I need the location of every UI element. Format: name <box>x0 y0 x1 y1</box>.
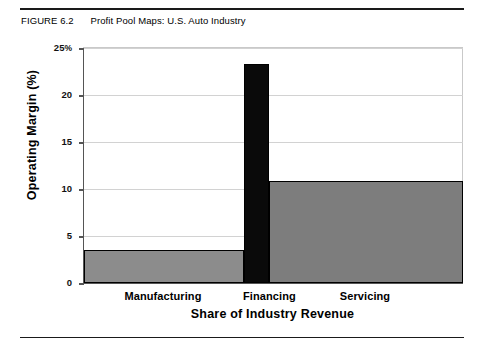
y-tick-label-5: 5 <box>32 230 72 241</box>
y-tick-label-10: 10 <box>32 183 72 194</box>
bar-financing <box>244 64 269 283</box>
y-tick-label-15: 15 <box>32 136 72 147</box>
x-label-manufacturing: Manufacturing <box>83 290 243 302</box>
y-axis-percent-symbol: % <box>64 43 72 53</box>
gridline-25 <box>84 48 463 49</box>
chart-container: Operating Margin (%) 25%20151050 Manufac… <box>0 0 484 347</box>
y-tick-label-0: 0 <box>32 277 72 288</box>
plot-area <box>83 48 463 284</box>
gridline-15 <box>84 142 463 143</box>
y-tick-label-20: 20 <box>32 89 72 100</box>
x-axis-title: Share of Industry Revenue <box>83 307 462 321</box>
x-label-servicing: Servicing <box>268 290 462 302</box>
figure-rule-bottom <box>20 337 464 338</box>
gridline-20 <box>84 95 463 96</box>
y-axis-title: Operating Margin (%) <box>25 40 39 230</box>
bar-servicing <box>269 181 463 283</box>
bar-manufacturing <box>84 250 244 283</box>
y-tick-label-25: 25% <box>32 42 72 53</box>
x-label-financing: Financing <box>243 290 268 302</box>
